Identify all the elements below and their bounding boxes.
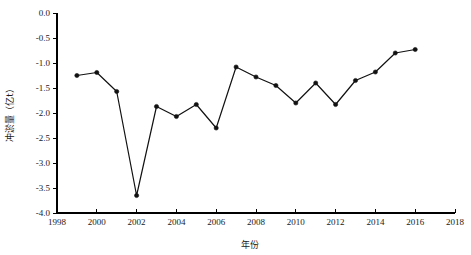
- y-tick-label: -1.0: [36, 58, 51, 68]
- x-axis-ticks: 1998200020022004200620082010201220142016…: [48, 209, 465, 227]
- data-point: [334, 102, 338, 106]
- x-tick-label: 2008: [247, 217, 266, 227]
- y-tick-label: -1.5: [36, 83, 51, 93]
- y-axis-title: 冲淤量（亿t）: [4, 84, 15, 142]
- x-tick-label: 2012: [327, 217, 345, 227]
- y-tick-label: -2.0: [36, 108, 51, 118]
- data-point: [214, 126, 218, 130]
- x-tick-label: 1998: [48, 217, 67, 227]
- y-axis-ticks: 0.0-0.5-1.0-1.5-2.0-2.5-3.0-3.5-4.0: [36, 8, 57, 218]
- x-tick-label: 2000: [88, 217, 107, 227]
- series-line-chongyuliang: [77, 50, 415, 196]
- data-point: [135, 193, 139, 197]
- x-tick-label: 2016: [406, 217, 425, 227]
- data-point: [154, 104, 158, 108]
- y-tick-label: -3.5: [36, 183, 51, 193]
- data-point: [393, 51, 397, 55]
- data-point: [294, 101, 298, 105]
- y-tick-label: -2.5: [36, 133, 51, 143]
- series-markers: [75, 47, 418, 197]
- data-point: [234, 65, 238, 69]
- data-point: [174, 114, 178, 118]
- data-point: [95, 70, 99, 74]
- data-point: [373, 70, 377, 74]
- data-point: [75, 73, 79, 77]
- x-tick-label: 2018: [446, 217, 465, 227]
- data-point: [413, 47, 417, 51]
- data-point: [194, 102, 198, 106]
- data-point: [353, 78, 357, 82]
- y-tick-label: -0.5: [36, 33, 51, 43]
- chart-canvas: 0.0-0.5-1.0-1.5-2.0-2.5-3.0-3.5-4.0 1998…: [0, 0, 471, 255]
- x-tick-label: 2006: [207, 217, 226, 227]
- data-point: [254, 75, 258, 79]
- data-point: [314, 81, 318, 85]
- data-point: [115, 89, 119, 93]
- y-tick-label: 0.0: [39, 8, 51, 18]
- data-point: [274, 83, 278, 87]
- line-chart: 0.0-0.5-1.0-1.5-2.0-2.5-3.0-3.5-4.0 1998…: [0, 0, 471, 255]
- x-tick-label: 2004: [167, 217, 186, 227]
- x-tick-label: 2010: [287, 217, 306, 227]
- y-tick-label: -3.0: [36, 158, 51, 168]
- x-tick-label: 2014: [366, 217, 385, 227]
- x-tick-label: 2002: [128, 217, 146, 227]
- x-axis-title: 年份: [241, 239, 259, 250]
- plot-area: 0.0-0.5-1.0-1.5-2.0-2.5-3.0-3.5-4.0 1998…: [36, 8, 465, 227]
